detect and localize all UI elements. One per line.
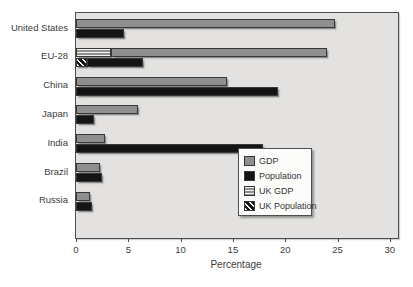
gdp-segment xyxy=(76,192,90,201)
plot-area xyxy=(75,12,399,239)
x-tick xyxy=(285,238,286,242)
x-tick xyxy=(390,238,391,242)
uk-population-segment xyxy=(76,58,87,67)
category-label: Japan xyxy=(0,108,68,120)
x-tick xyxy=(181,238,182,242)
population-segment xyxy=(76,115,94,124)
gdp-segment xyxy=(111,48,328,57)
x-tick xyxy=(128,238,129,242)
population-bar xyxy=(76,115,94,124)
x-tick xyxy=(233,238,234,242)
bar-group-brazil xyxy=(76,163,398,182)
population-bar xyxy=(76,58,143,67)
x-tick-label: 15 xyxy=(221,244,245,255)
legend-swatch-uk-gdp xyxy=(244,186,255,196)
population-bar xyxy=(76,87,278,96)
uk-gdp-segment xyxy=(76,48,111,57)
legend-label: GDP xyxy=(259,156,279,166)
category-label: China xyxy=(0,79,68,91)
category-label: India xyxy=(0,137,68,149)
gdp-bar xyxy=(76,192,90,201)
population-segment xyxy=(76,173,102,182)
population-segment xyxy=(76,87,278,96)
category-label: Russia xyxy=(0,194,68,206)
gdp-segment xyxy=(76,105,138,114)
gdp-segment xyxy=(76,163,100,172)
legend-label: UK GDP xyxy=(259,186,294,196)
x-tick-label: 20 xyxy=(273,244,297,255)
legend-label: Population xyxy=(259,171,302,181)
population-bar xyxy=(76,202,92,211)
legend-item: UK Population xyxy=(244,199,311,213)
gdp-segment xyxy=(76,134,105,143)
legend-swatch-gdp xyxy=(244,156,255,166)
x-tick-label: 0 xyxy=(64,244,88,255)
legend-label: UK Population xyxy=(259,201,317,211)
population-bar xyxy=(76,173,102,182)
legend-item: Population xyxy=(244,169,311,183)
population-segment xyxy=(87,58,144,67)
population-segment xyxy=(76,144,263,153)
gdp-bar xyxy=(76,163,100,172)
category-label: United States xyxy=(0,22,68,34)
gdp-bar xyxy=(76,134,105,143)
legend: GDPPopulationUK GDPUK Population xyxy=(238,148,312,216)
bar-group-united-states xyxy=(76,19,398,38)
category-label: Brazil xyxy=(0,166,68,178)
x-tick-label: 10 xyxy=(169,244,193,255)
population-bar xyxy=(76,144,263,153)
bar-group-russia xyxy=(76,192,398,211)
gdp-bar xyxy=(76,105,138,114)
population-segment xyxy=(76,202,92,211)
population-segment xyxy=(76,29,124,38)
legend-item: UK GDP xyxy=(244,184,311,198)
bar-group-china xyxy=(76,77,398,96)
x-tick xyxy=(338,238,339,242)
legend-item: GDP xyxy=(244,154,311,168)
x-tick-label: 25 xyxy=(326,244,350,255)
bar-group-japan xyxy=(76,105,398,124)
population-bar xyxy=(76,29,124,38)
gdp-segment xyxy=(76,19,335,28)
gdp-bar xyxy=(76,77,227,86)
bar-group-eu-28 xyxy=(76,48,398,67)
gdp-bar xyxy=(76,48,327,57)
gdp-segment xyxy=(76,77,227,86)
legend-swatch-uk-population xyxy=(244,201,255,211)
x-tick-label: 5 xyxy=(116,244,140,255)
category-label: EU-28 xyxy=(0,50,68,62)
x-tick xyxy=(76,238,77,242)
bar-group-india xyxy=(76,134,398,153)
chart-figure: GDPPopulationUK GDPUK Population Percent… xyxy=(0,0,413,287)
x-tick-label: 30 xyxy=(378,244,402,255)
gdp-bar xyxy=(76,19,335,28)
legend-swatch-population xyxy=(244,171,255,181)
x-axis-title: Percentage xyxy=(75,259,397,270)
